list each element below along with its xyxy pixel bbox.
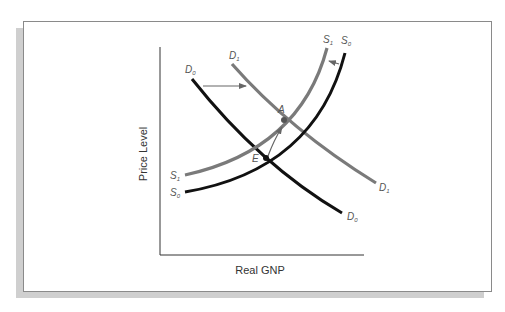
label-s0-top: S0 <box>341 35 352 47</box>
curve-d1 <box>232 64 376 183</box>
label-s1-bottom: S1 <box>170 170 180 182</box>
point-e <box>263 155 269 161</box>
label-e: E <box>252 153 259 164</box>
label-d0: D0 <box>185 64 196 76</box>
point-a <box>281 117 287 123</box>
label-d1-bottom: D1 <box>379 182 390 194</box>
label-d1: D1 <box>229 50 240 62</box>
curve-s0 <box>185 53 345 192</box>
label-d0-bottom: D0 <box>347 211 358 223</box>
ad-as-diagram: D0 D1 S1 S0 S1 S0 D1 D0 A E Real GNP Pri… <box>0 0 505 312</box>
y-axis-label: Price Level <box>137 127 149 181</box>
axes <box>160 47 364 255</box>
x-axis-label: Real GNP <box>235 264 285 276</box>
label-a: A <box>277 104 285 115</box>
label-s0-bottom: S0 <box>170 187 181 199</box>
label-s1-top: S1 <box>323 34 333 46</box>
supply-shift-arrow <box>329 61 339 64</box>
